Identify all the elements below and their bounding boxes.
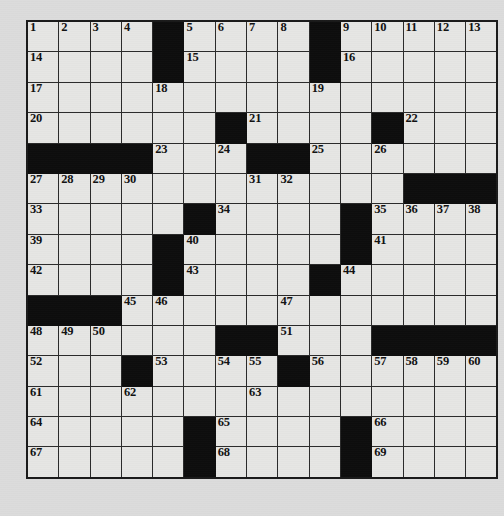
crossword-cell[interactable] xyxy=(215,386,246,416)
crossword-cell[interactable] xyxy=(247,204,278,234)
crossword-cell[interactable] xyxy=(59,234,90,264)
crossword-cell[interactable]: 34 xyxy=(215,204,246,234)
crossword-cell[interactable]: 17 xyxy=(27,82,59,112)
crossword-cell[interactable] xyxy=(278,265,309,295)
crossword-cell[interactable] xyxy=(466,265,498,295)
crossword-cell[interactable] xyxy=(434,113,465,143)
crossword-cell[interactable] xyxy=(466,113,498,143)
crossword-cell[interactable]: 51 xyxy=(278,325,309,355)
crossword-cell[interactable]: 37 xyxy=(434,204,465,234)
crossword-cell[interactable] xyxy=(309,204,340,234)
crossword-cell[interactable]: 30 xyxy=(121,173,152,203)
crossword-cell[interactable] xyxy=(403,447,434,478)
crossword-cell[interactable]: 26 xyxy=(372,143,403,173)
crossword-cell[interactable] xyxy=(434,82,465,112)
crossword-cell[interactable] xyxy=(340,295,371,325)
crossword-cell[interactable] xyxy=(59,417,90,447)
crossword-cell[interactable]: 47 xyxy=(278,295,309,325)
crossword-cell[interactable]: 62 xyxy=(121,386,152,416)
crossword-cell[interactable]: 64 xyxy=(27,417,59,447)
crossword-cell[interactable] xyxy=(184,82,215,112)
crossword-cell[interactable] xyxy=(309,386,340,416)
crossword-cell[interactable] xyxy=(372,82,403,112)
crossword-cell[interactable]: 3 xyxy=(90,21,121,52)
crossword-cell[interactable]: 63 xyxy=(247,386,278,416)
crossword-cell[interactable] xyxy=(153,325,184,355)
crossword-cell[interactable]: 59 xyxy=(434,356,465,386)
crossword-cell[interactable] xyxy=(59,265,90,295)
crossword-cell[interactable] xyxy=(434,234,465,264)
crossword-cell[interactable] xyxy=(340,386,371,416)
crossword-cell[interactable] xyxy=(184,295,215,325)
crossword-cell[interactable] xyxy=(90,82,121,112)
crossword-cell[interactable] xyxy=(309,447,340,478)
crossword-cell[interactable]: 18 xyxy=(153,82,184,112)
crossword-cell[interactable] xyxy=(466,295,498,325)
crossword-cell[interactable] xyxy=(466,143,498,173)
crossword-cell[interactable] xyxy=(121,265,152,295)
crossword-cell[interactable] xyxy=(247,265,278,295)
crossword-cell[interactable] xyxy=(121,52,152,82)
crossword-cell[interactable] xyxy=(309,113,340,143)
crossword-cell[interactable]: 32 xyxy=(278,173,309,203)
crossword-cell[interactable] xyxy=(278,204,309,234)
crossword-cell[interactable]: 49 xyxy=(59,325,90,355)
crossword-cell[interactable] xyxy=(309,295,340,325)
crossword-cell[interactable] xyxy=(90,447,121,478)
crossword-cell[interactable] xyxy=(309,325,340,355)
crossword-cell[interactable] xyxy=(466,417,498,447)
crossword-cell[interactable]: 66 xyxy=(372,417,403,447)
crossword-cell[interactable]: 28 xyxy=(59,173,90,203)
crossword-cell[interactable] xyxy=(434,417,465,447)
crossword-cell[interactable] xyxy=(90,356,121,386)
crossword-cell[interactable]: 20 xyxy=(27,113,59,143)
crossword-cell[interactable] xyxy=(278,386,309,416)
crossword-cell[interactable] xyxy=(466,82,498,112)
crossword-cell[interactable] xyxy=(121,234,152,264)
crossword-cell[interactable]: 48 xyxy=(27,325,59,355)
crossword-cell[interactable] xyxy=(90,113,121,143)
crossword-cell[interactable] xyxy=(90,234,121,264)
crossword-cell[interactable]: 54 xyxy=(215,356,246,386)
crossword-cell[interactable] xyxy=(215,265,246,295)
crossword-cell[interactable] xyxy=(153,417,184,447)
crossword-cell[interactable] xyxy=(215,52,246,82)
crossword-cell[interactable] xyxy=(434,265,465,295)
crossword-cell[interactable]: 9 xyxy=(340,21,371,52)
crossword-cell[interactable] xyxy=(278,113,309,143)
crossword-cell[interactable] xyxy=(247,82,278,112)
crossword-cell[interactable]: 60 xyxy=(466,356,498,386)
crossword-cell[interactable] xyxy=(372,52,403,82)
crossword-cell[interactable] xyxy=(184,325,215,355)
crossword-cell[interactable] xyxy=(59,82,90,112)
crossword-cell[interactable] xyxy=(466,52,498,82)
crossword-cell[interactable] xyxy=(278,52,309,82)
crossword-cell[interactable] xyxy=(153,386,184,416)
crossword-cell[interactable] xyxy=(340,173,371,203)
crossword-cell[interactable]: 44 xyxy=(340,265,371,295)
crossword-cell[interactable]: 14 xyxy=(27,52,59,82)
crossword-cell[interactable] xyxy=(278,417,309,447)
crossword-cell[interactable] xyxy=(372,173,403,203)
crossword-cell[interactable] xyxy=(403,265,434,295)
crossword-cell[interactable] xyxy=(403,417,434,447)
crossword-cell[interactable]: 65 xyxy=(215,417,246,447)
crossword-cell[interactable]: 31 xyxy=(247,173,278,203)
crossword-cell[interactable]: 45 xyxy=(121,295,152,325)
crossword-cell[interactable] xyxy=(309,173,340,203)
crossword-cell[interactable]: 35 xyxy=(372,204,403,234)
crossword-cell[interactable]: 1 xyxy=(27,21,59,52)
crossword-cell[interactable] xyxy=(215,82,246,112)
crossword-cell[interactable]: 25 xyxy=(309,143,340,173)
crossword-cell[interactable] xyxy=(403,143,434,173)
crossword-cell[interactable]: 39 xyxy=(27,234,59,264)
crossword-cell[interactable] xyxy=(372,265,403,295)
crossword-cell[interactable] xyxy=(434,143,465,173)
crossword-cell[interactable] xyxy=(247,234,278,264)
crossword-cell[interactable] xyxy=(309,417,340,447)
crossword-cell[interactable] xyxy=(434,52,465,82)
crossword-cell[interactable]: 7 xyxy=(247,21,278,52)
crossword-cell[interactable] xyxy=(90,417,121,447)
crossword-cell[interactable]: 40 xyxy=(184,234,215,264)
crossword-cell[interactable] xyxy=(90,386,121,416)
